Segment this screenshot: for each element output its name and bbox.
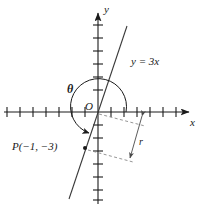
- origin-label: O: [85, 100, 93, 112]
- leader-from-point: [88, 150, 133, 162]
- y-axis-label: y: [103, 3, 109, 15]
- radius-label: r: [139, 136, 143, 147]
- y-axis: [93, 13, 103, 204]
- leader-from-origin: [99, 114, 145, 126]
- diagram-canvas: y x O y = 3x P(−1, −3) θ r: [0, 0, 205, 208]
- angle-theta-label: θ: [67, 82, 74, 96]
- line-equation-label: y = 3x: [130, 55, 159, 67]
- trig-diagram: y x O y = 3x P(−1, −3) θ r: [0, 0, 205, 208]
- point-p-marker: [83, 146, 87, 150]
- x-axis-label: x: [189, 116, 195, 128]
- point-p-label: P(−1, −3): [11, 140, 58, 153]
